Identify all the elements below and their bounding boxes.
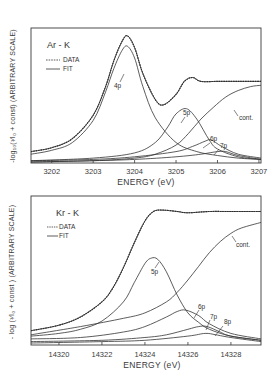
leader-cont — [234, 110, 238, 116]
x-axis-ticks: 320232033204320532063207 — [43, 160, 267, 176]
x-tick-label: 14320 — [49, 350, 70, 359]
x-tick-label: 3205 — [168, 167, 185, 176]
curve-5p — [31, 109, 261, 161]
figure: 320232033204320532063207 Ar - K DATA FIT… — [0, 0, 273, 381]
x-tick-label: 14324 — [134, 350, 155, 359]
label-cont: cont. — [239, 114, 253, 121]
curve-7p — [31, 326, 261, 342]
x-tick-label: 3202 — [43, 167, 60, 176]
legend: DATA FIT — [46, 56, 80, 72]
label-5p: 5p — [183, 109, 191, 117]
label-5p: 5p — [151, 268, 159, 276]
x-axis-label: ENERGY (eV) — [117, 177, 174, 187]
curve-data — [31, 36, 261, 152]
label-7p: 7p — [220, 142, 228, 150]
y-axis-label: -log₁₀(¹⁄I₀ + const) (ARBITRARY SCALE) — [9, 29, 17, 163]
leader-6p — [203, 143, 210, 148]
curve-5p — [31, 258, 261, 341]
leader-cont — [232, 236, 236, 242]
panel-kr-k: 1432014322143241432614328 Kr - K DATA FI… — [8, 196, 261, 370]
x-tick-label: 3203 — [85, 167, 102, 176]
label-7p: 7p — [210, 313, 218, 321]
legend: DATA FIT — [47, 223, 76, 239]
x-tick-label: 3204 — [126, 167, 143, 176]
leader-5p — [181, 117, 185, 123]
panel-ar-k: 320232033204320532063207 Ar - K DATA FIT… — [9, 28, 267, 187]
legend-fit-label: FIT — [63, 65, 73, 72]
label-8p: 8p — [224, 318, 232, 326]
x-tick-label: 3207 — [251, 167, 268, 176]
x-tick-label: 3206 — [209, 167, 226, 176]
legend-data-label: DATA — [63, 56, 80, 63]
label-4p: 4p — [114, 82, 122, 90]
label-6p: 6p — [198, 303, 206, 311]
panel-title: Ar - K — [47, 40, 70, 50]
curve-fit — [31, 36, 261, 152]
x-tick-label: 14328 — [220, 350, 241, 359]
x-tick-label: 14322 — [92, 350, 113, 359]
leader-6p — [194, 310, 199, 318]
label-cont: cont. — [236, 241, 250, 248]
y-axis-label: - log (¹⁄I₀ + const ) (ARBITRARY SCALE) — [8, 205, 16, 339]
panel-title: Kr - K — [56, 208, 79, 218]
x-tick-label: 14326 — [177, 350, 198, 359]
x-axis-label: ENERGY (eV) — [123, 360, 180, 370]
x-axis-ticks: 1432014322143241432614328 — [49, 342, 242, 359]
legend-fit-label: FIT — [59, 232, 69, 239]
legend-data-label: DATA — [59, 223, 76, 230]
leader-4p — [120, 74, 124, 82]
label-6p: 6p — [210, 135, 218, 143]
